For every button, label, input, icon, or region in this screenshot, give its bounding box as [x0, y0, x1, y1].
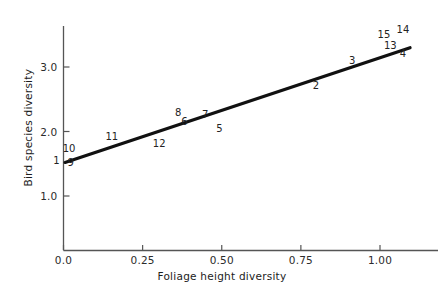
y-tick-label: 3.0 [8, 61, 58, 73]
data-point-label: 9 [67, 158, 73, 168]
x-tick-label: 0.25 [118, 254, 168, 266]
y-tick-label: 1.0 [8, 190, 58, 202]
data-point-label: 5 [216, 124, 222, 134]
data-point-label: 7 [202, 110, 208, 120]
x-tick-label: 1.00 [355, 254, 405, 266]
data-point-label: 4 [400, 49, 406, 59]
data-point-label: 6 [181, 117, 187, 127]
y-tick-label: 2.0 [8, 126, 58, 138]
x-tick-label: 0.0 [39, 254, 89, 266]
regression-line-group [65, 48, 410, 163]
data-point-label: 12 [153, 139, 166, 149]
x-tick-label: 0.50 [197, 254, 247, 266]
axes-group [64, 26, 439, 251]
data-point-label: 3 [349, 56, 355, 66]
x-tick-label: 0.75 [276, 254, 326, 266]
ticks-group [64, 67, 381, 251]
regression-line [65, 48, 410, 163]
data-point-label: 13 [384, 41, 397, 51]
data-point-label: 15 [378, 30, 391, 40]
data-point-label: 2 [313, 81, 319, 91]
data-point-label: 14 [397, 25, 410, 35]
x-axis-title: Foliage height diversity [0, 270, 444, 282]
data-point-label: 11 [105, 132, 118, 142]
data-point-label: 10 [63, 144, 76, 154]
data-point-label: 1 [53, 156, 59, 166]
bird-diversity-scatter-figure: Bird species diversity Foliage height di… [0, 0, 444, 294]
